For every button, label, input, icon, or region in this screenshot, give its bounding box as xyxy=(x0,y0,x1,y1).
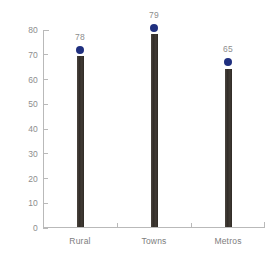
y-axis-tick-mark xyxy=(43,153,48,154)
bar xyxy=(151,34,158,227)
y-axis-tick: 70 xyxy=(43,54,48,55)
y-axis-tick-mark xyxy=(43,203,48,204)
x-axis-tick-mark xyxy=(191,223,192,228)
x-axis-category-label: Towns xyxy=(141,236,166,246)
y-axis-tick-mark xyxy=(43,54,48,55)
data-value-label: 65 xyxy=(223,44,233,54)
y-axis-tick-label: 70 xyxy=(28,50,38,60)
y-axis-tick: 10 xyxy=(43,203,48,204)
y-axis-tick-label: 60 xyxy=(28,75,38,85)
x-axis-tick-mark xyxy=(264,223,265,228)
y-axis-tick-label: 20 xyxy=(28,174,38,184)
x-axis-category-label: Metros xyxy=(214,236,241,246)
x-axis-tick-mark xyxy=(117,223,118,228)
bar-chart: 01020304050607080 787965 RuralTownsMetro… xyxy=(0,0,274,257)
data-value-label: 78 xyxy=(75,32,85,42)
y-axis-tick-label: 50 xyxy=(28,99,38,109)
y-axis-tick-mark xyxy=(43,129,48,130)
y-axis-tick: 40 xyxy=(43,129,48,130)
data-point-marker xyxy=(224,58,232,66)
y-axis-tick: 60 xyxy=(43,79,48,80)
y-axis-tick-mark xyxy=(43,104,48,105)
x-axis-tick-mark xyxy=(43,223,44,228)
y-axis-tick-label: 30 xyxy=(28,149,38,159)
y-axis-tick-label: 40 xyxy=(28,124,38,134)
y-axis-tick-mark xyxy=(43,79,48,80)
y-axis-tick-mark xyxy=(43,178,48,179)
bar xyxy=(77,56,84,227)
y-axis-tick: 30 xyxy=(43,153,48,154)
y-axis-tick: 50 xyxy=(43,104,48,105)
data-value-label: 79 xyxy=(149,10,159,20)
data-point-marker xyxy=(76,46,84,54)
y-axis-tick-mark xyxy=(43,30,48,31)
y-axis-tick: 80 xyxy=(43,30,48,31)
plot-area: 01020304050607080 xyxy=(43,30,265,228)
bar xyxy=(225,69,232,227)
data-point-marker xyxy=(150,24,158,32)
y-axis-tick-label: 10 xyxy=(28,198,38,208)
y-axis-tick-label: 0 xyxy=(33,223,38,233)
x-axis-line xyxy=(43,227,265,228)
x-axis-category-label: Rural xyxy=(69,236,90,246)
y-axis-tick: 20 xyxy=(43,178,48,179)
y-axis-tick-label: 80 xyxy=(28,25,38,35)
